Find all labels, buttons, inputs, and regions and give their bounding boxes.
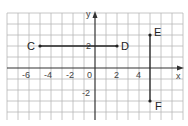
x-tick: -6: [22, 70, 30, 80]
point-d: [115, 44, 118, 47]
x-tick: 4: [136, 70, 141, 80]
y-axis-label: y: [86, 9, 91, 19]
y-tick: -2: [82, 88, 90, 98]
point-label-f: F: [155, 100, 162, 112]
point-label-e: E: [154, 26, 161, 38]
x-tick: 2: [114, 70, 119, 80]
x-axis-label: x: [176, 71, 181, 81]
point-label-d: D: [121, 40, 129, 52]
point-label-c: C: [27, 40, 35, 52]
x-tick: -2: [66, 70, 74, 80]
x-tick: -4: [44, 70, 52, 80]
point-e: [148, 33, 151, 36]
point-c: [38, 44, 41, 47]
y-axis-arrow-icon: [93, 11, 98, 18]
coordinate-plane: x y -6 -4 -2 0 2 4 2 -2 C D E F: [0, 0, 188, 126]
point-f: [148, 99, 151, 102]
x-tick: 0: [87, 70, 92, 80]
